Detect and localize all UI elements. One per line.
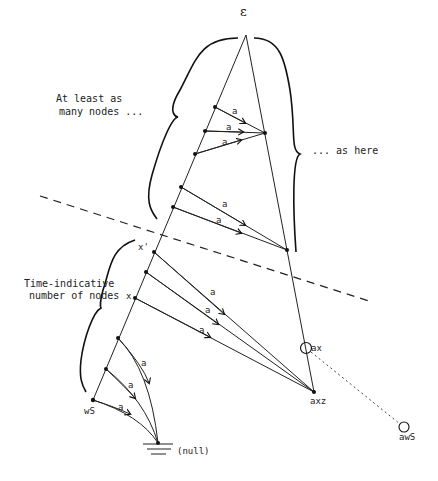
node-label-ax: ax <box>311 343 322 353</box>
upper-left-label-line1: At least as <box>56 93 122 104</box>
left-spine <box>93 35 246 400</box>
edge-label: a <box>128 380 133 390</box>
right-spine <box>246 35 314 392</box>
lower-left-label-line2: number of nodes <box>29 290 119 301</box>
middle-edge-group: a a <box>171 185 289 252</box>
edge-label: a <box>141 358 146 368</box>
edge-label: a <box>118 402 123 412</box>
edge-label: a <box>216 215 221 225</box>
node-label-x: x <box>126 291 132 301</box>
edge-label: a <box>232 106 237 116</box>
upper-right-label: ... as here <box>312 145 378 156</box>
upper-edge-group: a a a <box>193 105 267 156</box>
node-label-aws: awS <box>399 432 415 442</box>
node-label-ws: wS <box>84 406 95 416</box>
edge-label: a <box>205 305 210 315</box>
upper-right-brace <box>254 38 300 252</box>
upper-left-brace <box>149 38 238 219</box>
edge-label: a <box>210 287 215 297</box>
edge-label: a <box>226 122 231 132</box>
node-label-axz: axz <box>310 396 326 406</box>
edge-label: a <box>199 325 204 335</box>
edge-label: a <box>222 199 227 209</box>
null-label: (null) <box>177 446 210 456</box>
bottom-edge-group: a a a <box>91 336 160 445</box>
upper-left-label-line2: many nodes ... <box>59 106 143 117</box>
lower-edge-group: a a a <box>133 250 316 394</box>
dotted-extension-line <box>311 352 400 424</box>
node-label-x-prime: x' <box>138 242 149 252</box>
null-ground-icon <box>143 444 173 454</box>
automaton-diagram: ε a a a a a <box>0 0 438 481</box>
root-label: ε <box>240 4 247 19</box>
edge-label: a <box>222 137 227 147</box>
lower-left-label-line1: Time-indicative <box>24 278 114 289</box>
aws-node-circle <box>399 422 409 432</box>
